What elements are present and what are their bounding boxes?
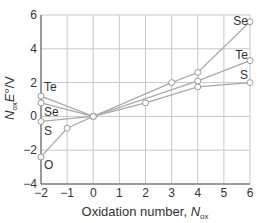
y-tick-label: −2 <box>23 143 37 157</box>
data-point-marker <box>195 84 201 90</box>
y-tick-label: 2 <box>30 76 37 90</box>
x-tick-label: 6 <box>247 186 254 200</box>
data-point-marker <box>90 113 96 119</box>
x-tick-label: 0 <box>90 186 97 200</box>
series-label-se: Se <box>44 105 59 119</box>
series-labels: TeSeSOSeTeS <box>44 14 248 172</box>
series-label-te: Te <box>235 48 248 62</box>
x-tick-label: 2 <box>142 186 149 200</box>
x-tick-label: 4 <box>194 186 201 200</box>
svg-text:NoxE°/V: NoxE°/V <box>2 76 19 120</box>
series-label-se: Se <box>233 14 248 28</box>
data-point-marker <box>64 125 70 131</box>
x-axis-title: Oxidation number, Nox <box>82 204 209 221</box>
frost-diagram-chart: TeSeSOSeTeS −2−10123456−4−20246 Oxidatio… <box>0 0 263 223</box>
y-tick-label: 0 <box>30 109 37 123</box>
x-tick-label: 3 <box>168 186 175 200</box>
data-point-marker <box>195 78 201 84</box>
series-label-s: S <box>240 68 248 82</box>
x-tick-label: 1 <box>116 186 123 200</box>
y-tick-label: 6 <box>30 8 37 22</box>
data-point-marker <box>143 100 149 106</box>
x-tick-label: −1 <box>60 186 74 200</box>
series-label-te: Te <box>44 80 57 94</box>
series-label-s: S <box>44 124 52 138</box>
series-label-o: O <box>44 158 53 172</box>
y-axis-title: NoxE°/V <box>2 76 19 120</box>
y-tick-label: −4 <box>23 177 37 191</box>
data-point-marker <box>169 80 175 86</box>
x-tick-label: 5 <box>221 186 228 200</box>
svg-text:Oxidation number, Nox: Oxidation number, Nox <box>82 204 209 221</box>
y-tick-label: 4 <box>30 42 37 56</box>
data-point-marker <box>195 69 201 75</box>
